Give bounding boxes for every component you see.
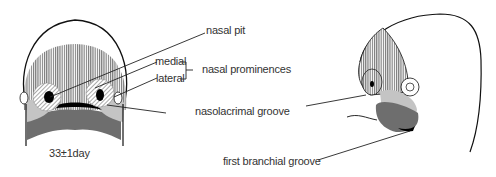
lateral-view bbox=[347, 14, 481, 152]
label-medial: medial bbox=[155, 55, 186, 67]
nasal-pit-right bbox=[96, 89, 104, 101]
nasal-pit-left bbox=[44, 91, 54, 103]
eye-lateral-inner bbox=[406, 83, 414, 91]
label-lateral: lateral bbox=[156, 72, 185, 84]
eye-left bbox=[20, 92, 28, 104]
label-nasal-prominences: nasal prominences bbox=[202, 63, 291, 75]
frontal-view bbox=[20, 20, 127, 146]
label-nasolacrimal-groove: nasolacrimal groove bbox=[195, 105, 290, 117]
nasal-pit-lateral bbox=[370, 81, 374, 87]
label-first-branchial-groove: first branchial groove bbox=[223, 155, 321, 167]
label-nasal-pit: nasal pit bbox=[206, 24, 245, 36]
caption-age: 33±1day bbox=[49, 147, 90, 159]
